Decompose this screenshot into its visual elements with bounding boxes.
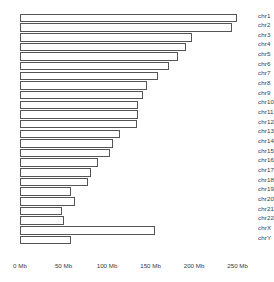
bar-label-chr15: chr15 — [258, 147, 274, 154]
bar-label-chr2: chr2 — [258, 21, 270, 28]
bar-label-chr9: chr9 — [258, 89, 270, 96]
x-tick-label: 50 Mb — [55, 262, 72, 269]
bar-label-chr14: chr14 — [258, 137, 274, 144]
x-tick-label: 200 Mb — [184, 262, 205, 269]
bar-chr12 — [20, 120, 137, 129]
x-tick-label: 0 Mb — [13, 262, 27, 269]
bar-chrY — [20, 236, 71, 245]
bar-label-chr12: chr12 — [258, 118, 274, 125]
bar-chrX — [20, 226, 155, 235]
bar-chr1 — [20, 14, 237, 23]
bar-row: chr12 — [20, 119, 255, 129]
bar-chr10 — [20, 101, 138, 110]
bar-chr17 — [20, 168, 91, 177]
plot-area: chr1chr2chr3chr4chr5chr6chr7chr8chr9chr1… — [20, 13, 255, 257]
bar-row: chrX — [20, 226, 255, 236]
bar-row: chr20 — [20, 197, 255, 207]
bar-chr21 — [20, 207, 62, 216]
bar-row: chr21 — [20, 206, 255, 216]
bar-chr13 — [20, 130, 120, 139]
bar-row: chr9 — [20, 90, 255, 100]
bar-row: chr5 — [20, 52, 255, 62]
bar-row: chr13 — [20, 129, 255, 139]
bar-label-chr13: chr13 — [258, 127, 274, 134]
bar-label-chr1: chr1 — [258, 12, 270, 19]
bar-row: chr17 — [20, 168, 255, 178]
bar-chr4 — [20, 43, 186, 52]
bar-chr6 — [20, 62, 169, 71]
bar-chr2 — [20, 23, 232, 32]
bar-label-chr8: chr8 — [258, 79, 270, 86]
bar-row: chr14 — [20, 139, 255, 149]
bar-chr7 — [20, 72, 158, 81]
bar-chr16 — [20, 158, 98, 167]
bar-row: chr15 — [20, 148, 255, 158]
bar-label-chr16: chr16 — [258, 156, 274, 163]
bar-label-chr10: chr10 — [258, 98, 274, 105]
bar-label-chr20: chr20 — [258, 195, 274, 202]
bar-label-chr7: chr7 — [258, 69, 270, 76]
bar-chr5 — [20, 52, 178, 61]
x-tick-label: 100 Mb — [97, 262, 118, 269]
bar-label-chrX: chrX — [258, 224, 271, 231]
bar-label-chr19: chr19 — [258, 185, 274, 192]
bar-row: chr3 — [20, 32, 255, 42]
bar-row: chr19 — [20, 187, 255, 197]
x-tick-label: 250 Mb — [227, 262, 248, 269]
bar-row: chr16 — [20, 158, 255, 168]
bar-chr11 — [20, 110, 138, 119]
bar-row: chr6 — [20, 61, 255, 71]
bar-row: chr2 — [20, 23, 255, 33]
bar-label-chr5: chr5 — [258, 50, 270, 57]
bar-chr22 — [20, 216, 64, 225]
bar-chr3 — [20, 33, 192, 42]
bar-chr20 — [20, 197, 75, 206]
bar-label-chr3: chr3 — [258, 31, 270, 38]
bar-row: chr1 — [20, 13, 255, 23]
bar-row: chrY — [20, 235, 255, 245]
x-tick-label: 150 Mb — [140, 262, 161, 269]
bar-chr8 — [20, 81, 147, 90]
bar-label-chr17: chr17 — [258, 166, 274, 173]
bar-chr14 — [20, 139, 113, 148]
bar-row: chr18 — [20, 177, 255, 187]
bar-label-chr21: chr21 — [258, 205, 274, 212]
chromosome-length-bar-chart: chr1chr2chr3chr4chr5chr6chr7chr8chr9chr1… — [0, 0, 274, 282]
bar-chr19 — [20, 187, 71, 196]
bar-label-chr11: chr11 — [258, 108, 274, 115]
bar-row: chr7 — [20, 71, 255, 81]
bar-row: chr4 — [20, 42, 255, 52]
bar-label-chrY: chrY — [258, 234, 271, 241]
bar-row: chr10 — [20, 100, 255, 110]
bar-label-chr4: chr4 — [258, 40, 270, 47]
bar-label-chr6: chr6 — [258, 60, 270, 67]
bar-label-chr22: chr22 — [258, 214, 274, 221]
bar-chr18 — [20, 178, 88, 187]
bar-chr9 — [20, 91, 143, 100]
bar-row: chr11 — [20, 110, 255, 120]
bar-row: chr22 — [20, 216, 255, 226]
x-axis: 0 Mb50 Mb100 Mb150 Mb200 Mb250 Mb — [20, 262, 255, 276]
bar-chr15 — [20, 149, 110, 158]
bar-row: chr8 — [20, 81, 255, 91]
bar-label-chr18: chr18 — [258, 176, 274, 183]
